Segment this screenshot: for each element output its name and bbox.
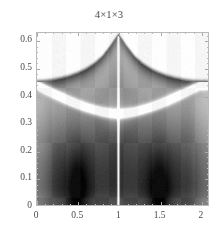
y-axis-tick-label: 0 [6, 200, 32, 210]
y-axis-tick-label: 0.5 [6, 62, 32, 72]
y-axis-tick-label: 0.1 [6, 172, 32, 182]
x-axis-tick-label: 2 [188, 210, 214, 220]
y-axis-tick-label: 0.3 [6, 117, 32, 127]
x-axis-tick-label: 0.5 [64, 210, 90, 220]
x-axis-tick-label: 1.5 [147, 210, 173, 220]
y-axis-tick-label: 0.6 [6, 34, 32, 44]
x-axis-tick-label: 0 [23, 210, 49, 220]
y-axis-tick-label: 0.2 [6, 145, 32, 155]
density-plot-figure: 4×1×3 00.10.20.30.40.50.600.511.52 [0, 0, 218, 236]
x-axis-tick-label: 1 [105, 210, 131, 220]
y-axis-tick-label: 0.4 [6, 90, 32, 100]
axis-annotations: 00.10.20.30.40.50.600.511.52 [36, 32, 209, 206]
page-title: 4×1×3 [0, 9, 218, 20]
